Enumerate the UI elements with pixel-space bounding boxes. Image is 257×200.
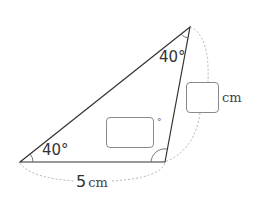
bottom-side-label: 5cm — [76, 174, 108, 190]
right-dimension-arc-bottom — [165, 113, 200, 162]
side-unit-label: cm — [222, 91, 242, 104]
top-angle-arc — [181, 34, 188, 38]
right-dimension-arc-top — [190, 27, 208, 82]
bottom-side-value: 5 — [76, 172, 86, 191]
angle-answer-box[interactable] — [106, 117, 154, 148]
left-angle-arc — [30, 154, 33, 162]
bottom-side-unit: cm — [88, 175, 108, 190]
top-angle-label: 40° — [159, 50, 186, 65]
bottom-dimension-arc-right — [112, 163, 165, 181]
side-answer-box[interactable] — [186, 82, 219, 113]
bottom-dimension-arc-left — [20, 163, 75, 181]
angle-degree-symbol: ° — [157, 117, 162, 127]
left-angle-label: 40° — [42, 143, 69, 158]
bottom-right-angle-arc — [151, 149, 167, 162]
